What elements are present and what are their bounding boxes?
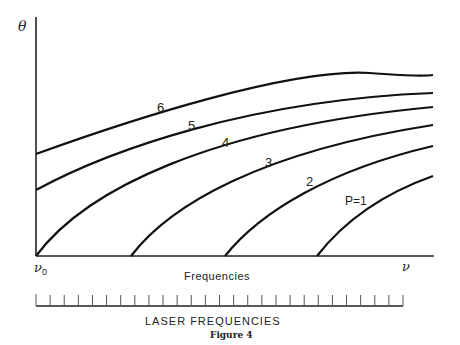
x-axis-start-label: ν (34, 260, 42, 275)
curve-label-p1: P=1 (345, 194, 367, 208)
curve-label-6: 6 (157, 100, 164, 115)
curve-p4 (36, 107, 433, 256)
laser-frequency-scale (36, 294, 403, 306)
curve-p2 (225, 146, 433, 256)
curve-label-4: 4 (222, 135, 229, 150)
curve-label-5: 5 (188, 118, 195, 133)
x-axis-title: Frequencies (184, 270, 250, 282)
curve-p3 (131, 125, 433, 256)
laser-frequencies-label: LASER FREQUENCIES (145, 315, 281, 327)
figure-caption: Figure 4 (210, 330, 253, 340)
x-axis-start-subscript: 0 (42, 267, 47, 277)
curve-label-2: 2 (306, 174, 313, 189)
y-axis-label: θ (18, 18, 27, 34)
x-axis-end-label: ν (402, 259, 410, 274)
figure-4-chart: 6 5 4 3 2 P=1 θ ν 0 ν Frequencies LASER … (0, 0, 460, 345)
curves (36, 73, 433, 256)
curve-label-3: 3 (265, 155, 272, 170)
curve-p1 (317, 176, 433, 256)
